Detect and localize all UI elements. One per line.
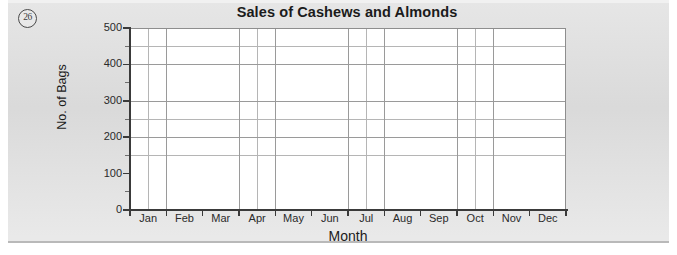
x-axis-tick-label: May [276,212,312,224]
y-axis-tick-label: 200 [94,130,122,142]
x-axis-tick-label: Oct [457,212,493,224]
y-axis-tick-label: 400 [94,57,122,69]
y-axis-minor-tick [125,119,129,120]
y-axis-minor-tick [125,155,129,156]
plot-area [130,28,566,210]
chart-title: Sales of Cashews and Almonds [126,4,568,20]
x-axis-tick-label: Dec [530,212,566,224]
x-axis-tick-label: Apr [239,212,275,224]
y-axis-tick [123,209,129,211]
gridlines-major [130,28,566,210]
y-axis-minor-tick [125,191,129,192]
y-axis-minor-tick [125,82,129,83]
y-axis-tick-label: 300 [94,94,122,106]
x-axis-tick-label: Jul [348,212,384,224]
plot-frame-top [130,28,566,29]
x-axis-tick-label: Jan [130,212,166,224]
y-axis-tick [123,100,129,102]
y-axis-minor-tick [125,46,129,47]
y-axis-tick [123,64,129,66]
x-axis-tick-label: Jun [312,212,348,224]
x-axis-tick-label: Mar [203,212,239,224]
y-axis-title: No. of Bags [55,37,69,157]
x-axis-tick-label: Aug [385,212,421,224]
y-axis-line [129,27,131,211]
chart-panel: 26 Sales of Cashews and Almonds 01002003… [8,0,669,243]
x-axis-tick-label: Feb [167,212,203,224]
y-axis-tick-label: 0 [94,203,122,215]
y-axis-tick [123,136,129,138]
y-axis-tick-label: 100 [94,167,122,179]
y-axis-tick [123,173,129,175]
x-axis-title: Month [130,228,566,244]
question-number-badge: 26 [18,9,37,28]
worksheet-page: 26 Sales of Cashews and Almonds 01002003… [0,0,677,255]
plot-frame-right [565,28,566,210]
x-axis-tick-label: Nov [494,212,530,224]
y-axis-tick-label: 500 [94,21,122,33]
y-axis-tick [123,27,129,29]
x-axis-tick-label: Sep [421,212,457,224]
